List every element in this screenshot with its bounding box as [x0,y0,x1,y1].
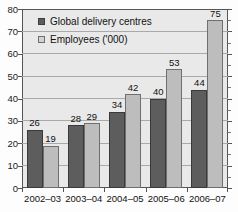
legend-swatch-icon [38,18,45,25]
y-tick-minor-right [228,132,231,133]
bar [150,99,166,189]
bar-value-label: 19 [40,134,62,144]
bar [43,146,59,189]
bar-value-label: 26 [24,118,46,128]
bar [125,94,141,188]
bar-chart: 01020304050607080 26192829344240534475 2… [0,0,238,212]
bar [68,125,84,188]
legend-item: Employees ('000) [38,32,168,47]
bar-value-label: 42 [122,83,144,93]
bar [191,90,207,188]
bar-value-label: 29 [81,112,103,122]
bar [166,69,182,188]
y-tick-mark-right [228,99,232,100]
bar-value-label: 75 [204,9,226,19]
y-tick-label: 40 [0,94,18,104]
x-tick-label: 2006–07 [189,194,226,204]
x-tick-mark [187,188,188,192]
y-tick-label: 70 [0,27,18,37]
y-tick-minor-right [228,43,231,44]
y-tick-mark-right [228,188,232,189]
x-tick-mark [22,188,23,192]
legend: Global delivery centresEmployees ('000) [38,14,168,50]
x-tick-label: 2005–06 [148,194,185,204]
bar-group: 4475 [187,9,228,188]
bar [109,112,125,188]
y-tick-label: 50 [0,72,18,82]
y-tick-mark-right [228,166,232,167]
y-tick-minor-right [228,87,231,88]
y-tick-mark-right [228,31,232,32]
y-tick-label: 80 [0,5,18,15]
x-axis: 2002–032003–042004–052005–062006–07 [22,188,228,212]
x-tick-label: 2004–05 [107,194,144,204]
x-tick-label: 2002–03 [24,194,61,204]
bar-value-label: 53 [163,58,185,68]
x-tick-mark [104,188,105,192]
y-tick-mark-right [228,54,232,55]
y-tick-minor-right [228,110,231,111]
y-tick-minor-right [228,20,231,21]
x-tick-mark [227,188,228,192]
y-tick-label: 30 [0,116,18,126]
y-tick-minor-right [228,154,231,155]
y-tick-minor-right [228,177,231,178]
y-tick-mark-right [228,76,232,77]
bar [84,123,100,188]
legend-label: Global delivery centres [50,17,152,27]
y-tick-label: 20 [0,139,18,149]
y-tick-mark-right [228,9,232,10]
legend-swatch-icon [38,36,45,43]
legend-item: Global delivery centres [38,14,168,29]
y-tick-label: 10 [0,161,18,171]
x-tick-mark [146,188,147,192]
bar [207,20,223,188]
y-tick-mark-right [228,143,232,144]
x-tick-mark [63,188,64,192]
x-tick-label: 2003–04 [65,194,102,204]
y-tick-label: 0 [0,184,18,194]
y-tick-minor-right [228,65,231,66]
y-tick-label: 60 [0,49,18,59]
legend-label: Employees ('000) [50,35,128,45]
y-tick-mark-right [228,121,232,122]
